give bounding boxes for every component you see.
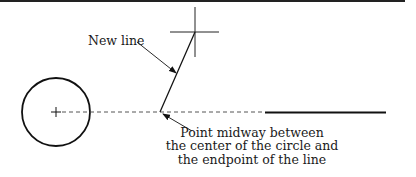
midpoint-label-line-3: the endpoint of the line (178, 152, 326, 167)
crosshair-cursor-icon (170, 7, 219, 57)
new-line (160, 32, 195, 112)
new-line-label: New line (88, 33, 144, 48)
midpoint-label-line-2: the center of the circle and (166, 138, 339, 153)
circle-center-mark-icon (51, 107, 61, 117)
diagram-canvas: New line Point midway between the center… (0, 0, 416, 177)
